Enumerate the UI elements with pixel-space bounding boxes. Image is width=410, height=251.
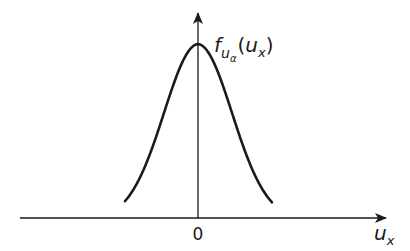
- density-diagram: fuα(ux) 0 ux: [0, 0, 410, 251]
- x-axis-label: ux: [374, 221, 395, 248]
- y-axis-label: fuα(ux): [214, 33, 274, 64]
- origin-label: 0: [193, 224, 204, 244]
